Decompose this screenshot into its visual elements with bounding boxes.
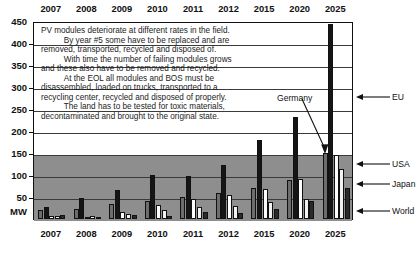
bar-usa-2012	[227, 195, 232, 219]
top-year-label-2012: 2012	[218, 3, 239, 15]
bottom-year-label-2015: 2015	[254, 228, 275, 240]
bar-japan-2020	[304, 199, 309, 219]
bar-eu-2007	[44, 207, 49, 219]
bar-eu-2012	[221, 165, 226, 219]
bar-world-2011	[203, 212, 208, 219]
series-label-eu: EU	[392, 92, 404, 102]
top-year-label-2011: 2011	[183, 3, 203, 15]
top-year-label-2025: 2025	[325, 3, 346, 15]
germany-callout-arrow	[300, 96, 330, 158]
y-tick-label-200: 200	[11, 127, 27, 137]
top-year-label-2015: 2015	[254, 3, 275, 15]
bottom-year-label-2020: 2020	[289, 228, 310, 240]
bar-germany-2020	[287, 180, 292, 219]
series-label-usa: USA	[392, 159, 410, 169]
bar-usa-2010	[156, 205, 161, 219]
bar-japan-2007	[55, 216, 60, 219]
y-tick-label-250: 250	[11, 105, 27, 115]
bar-world-2008	[96, 217, 101, 219]
bar-eu-2008	[79, 198, 84, 219]
bar-world-2025	[345, 188, 350, 219]
bar-world-2020	[309, 201, 314, 219]
explanatory-note: PV modules deteriorate at different rate…	[41, 26, 267, 121]
y-tick-label-150: 150	[11, 149, 27, 159]
bar-world-2015	[274, 209, 279, 219]
bottom-year-label-2010: 2010	[147, 228, 168, 240]
bar-germany-2015	[251, 188, 256, 219]
series-arrow-usa	[356, 160, 390, 169]
bar-usa-2015	[263, 189, 268, 219]
series-label-japan: Japan	[392, 179, 415, 189]
bar-japan-2015	[268, 202, 273, 219]
bottom-year-label-2007: 2007	[40, 228, 61, 240]
y-tick-label-450: 450	[11, 17, 27, 27]
bar-germany-2007	[38, 210, 43, 219]
bar-eu-2015	[257, 140, 262, 219]
bottom-year-label-2025: 2025	[325, 228, 346, 240]
series-arrow-world	[356, 207, 390, 216]
bar-japan-2010	[162, 210, 167, 219]
top-year-label-2010: 2010	[147, 3, 168, 15]
bar-germany-2009	[109, 204, 114, 219]
bar-japan-2011	[197, 207, 202, 219]
bar-world-2007	[60, 215, 65, 219]
bar-japan-2025	[339, 169, 344, 219]
series-arrow-eu	[356, 93, 390, 102]
bar-usa-2007	[49, 216, 54, 219]
y-tick-label-400: 400	[11, 39, 27, 49]
bar-eu-2010	[150, 175, 155, 219]
top-year-label-2008: 2008	[76, 3, 97, 15]
bar-usa-2009	[120, 212, 125, 219]
bar-world-2012	[238, 213, 243, 219]
bar-japan-2008	[90, 216, 95, 219]
bar-eu-2009	[115, 190, 120, 219]
bar-usa-2025	[334, 155, 339, 219]
top-year-label-2007: 2007	[40, 3, 61, 15]
bar-world-2010	[167, 216, 172, 219]
bar-germany-2011	[180, 197, 185, 219]
series-arrow-japan	[356, 180, 390, 189]
bar-germany-2008	[74, 209, 79, 219]
bar-germany-2025	[323, 153, 328, 219]
y-tick-label-50: 50	[16, 193, 27, 203]
bottom-year-label-2011: 2011	[183, 228, 203, 240]
y-axis: 45040035030025020015010050MW	[0, 0, 30, 253]
pv-module-eol-bar-chart: 200720082009201020112012201520202025 450…	[0, 0, 419, 253]
bar-japan-2012	[233, 206, 238, 219]
bottom-year-label-2009: 2009	[112, 228, 133, 240]
bar-germany-2010	[145, 201, 150, 219]
top-year-label-2020: 2020	[289, 3, 310, 15]
bottom-year-label-2008: 2008	[76, 228, 97, 240]
y-tick-label-100: 100	[11, 171, 27, 181]
bar-usa-2008	[85, 217, 90, 219]
bar-eu-2011	[186, 176, 191, 219]
top-year-axis: 200720082009201020112012201520202025	[0, 3, 419, 17]
bar-world-2009	[132, 215, 137, 219]
top-year-label-2009: 2009	[112, 3, 133, 15]
bar-germany-2012	[216, 193, 221, 219]
series-label-world: World	[392, 206, 414, 216]
bar-usa-2020	[298, 179, 303, 219]
bar-eu-2020	[293, 117, 298, 219]
bar-japan-2009	[126, 214, 131, 219]
y-axis-unit-label: MW	[10, 207, 27, 217]
bar-usa-2011	[191, 199, 196, 219]
bottom-year-label-2012: 2012	[218, 228, 239, 240]
y-tick-label-350: 350	[11, 61, 27, 71]
bottom-year-axis: 200720082009201020112012201520202025	[0, 228, 419, 242]
y-tick-label-300: 300	[11, 83, 27, 93]
